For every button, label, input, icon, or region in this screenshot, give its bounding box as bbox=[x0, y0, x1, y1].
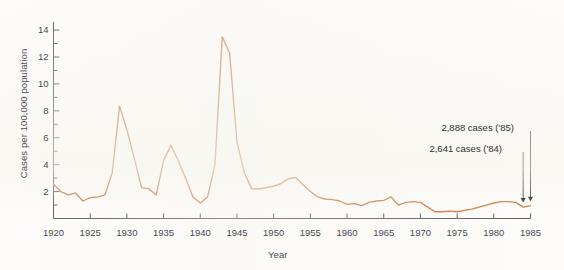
axis-group bbox=[54, 22, 531, 219]
x-tick-label: 1920 bbox=[40, 227, 68, 238]
x-tick-label: 1985 bbox=[517, 227, 545, 238]
x-tick-label: 1960 bbox=[333, 227, 361, 238]
y-tick-label: 12 bbox=[34, 51, 49, 62]
x-tick-label: 1940 bbox=[186, 227, 214, 238]
annotation-1984: 2,641 cases ('84) bbox=[378, 143, 502, 154]
x-tick-label: 1930 bbox=[113, 227, 141, 238]
y-tick-label: 2 bbox=[34, 186, 49, 197]
x-tick-label: 1970 bbox=[406, 227, 434, 238]
x-tick-label: 1950 bbox=[260, 227, 288, 238]
x-tick-label: 1945 bbox=[223, 227, 251, 238]
x-tick-label: 1955 bbox=[296, 227, 324, 238]
y-tick-label: 14 bbox=[34, 24, 49, 35]
x-tick-label: 1965 bbox=[370, 227, 398, 238]
y-tick-label: 8 bbox=[34, 105, 49, 116]
annotation-arrows bbox=[521, 131, 534, 203]
x-tick-label: 1925 bbox=[76, 227, 104, 238]
annotation-1985: 2,888 cases ('85) bbox=[390, 122, 514, 133]
chart-figure: Cases per 100,000 population Year 246810… bbox=[0, 0, 564, 270]
y-axis-title: Cases per 100,000 population bbox=[18, 44, 29, 184]
x-axis-title: Year bbox=[268, 249, 288, 260]
x-tick-label: 1975 bbox=[443, 227, 471, 238]
y-tick-label: 4 bbox=[34, 159, 49, 170]
y-tick-label: 10 bbox=[34, 78, 49, 89]
x-tick-label: 1980 bbox=[480, 227, 508, 238]
y-tick-label: 6 bbox=[34, 132, 49, 143]
x-tick-label: 1935 bbox=[150, 227, 178, 238]
